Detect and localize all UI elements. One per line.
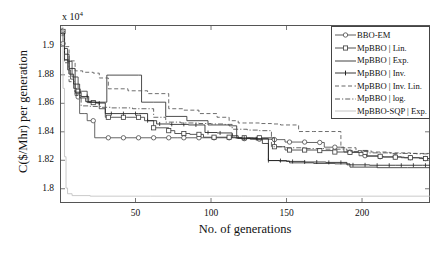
- data-point-marker: [121, 136, 125, 140]
- legend-label: MpBBO-SQP | Exp.: [357, 107, 427, 116]
- legend-item[interactable]: BBO-EM: [332, 29, 429, 42]
- y-axis-tick-label: 1.86: [20, 98, 54, 108]
- legend-label: MpBBO | Inv.: [357, 69, 406, 78]
- y-axis-tick-label: 1.84: [20, 127, 54, 137]
- legend-symbol-none-icon: [334, 93, 357, 105]
- legend-symbol-none-icon: [334, 80, 357, 92]
- legend-symbol-circle-icon: [334, 29, 357, 41]
- legend-item[interactable]: MpBBO-SQP | Exp.: [332, 105, 429, 118]
- data-point-marker: [318, 140, 322, 144]
- legend-label: MpBBO | Inv. Lin.: [357, 82, 422, 91]
- data-point-marker: [227, 135, 231, 139]
- data-point-marker: [287, 140, 291, 144]
- data-point-marker: [152, 126, 156, 130]
- data-point-marker: [136, 136, 140, 140]
- y-axis-tick-label: 1.8: [20, 184, 54, 194]
- data-point-marker: [378, 154, 382, 158]
- data-point-marker: [318, 148, 322, 152]
- y-axis-tick-label: 1.9: [20, 41, 54, 51]
- legend-label: MpBBO | Lin.: [357, 44, 407, 53]
- data-point-marker: [333, 145, 337, 149]
- data-point-marker: [121, 115, 125, 119]
- x-axis-tick-label: 150: [267, 208, 307, 218]
- legend-label: MpBBO | log.: [357, 94, 406, 103]
- data-point-marker: [197, 132, 201, 136]
- y-axis-tick-label: 1.82: [20, 155, 54, 165]
- y-axis-tick-label: 1.88: [20, 70, 54, 80]
- data-point-marker: [287, 148, 291, 152]
- legend-symbol-none-icon: [334, 105, 357, 117]
- legend-label: BBO-EM: [357, 31, 390, 40]
- legend-item[interactable]: MpBBO | Exp.: [332, 54, 429, 67]
- data-point-marker: [136, 115, 140, 119]
- data-point-marker: [91, 118, 95, 122]
- x-axis-tick-label: 200: [342, 208, 382, 218]
- legend-item[interactable]: MpBBO | log.: [332, 92, 429, 105]
- data-point-marker: [212, 135, 216, 139]
- x-axis-tick-label: 100: [191, 208, 231, 218]
- data-point-marker: [91, 101, 95, 105]
- data-point-marker: [348, 150, 352, 154]
- data-point-marker: [167, 129, 171, 133]
- data-point-marker: [393, 155, 397, 159]
- data-point-marker: [182, 131, 186, 135]
- legend-item[interactable]: MpBBO | Lin.: [332, 42, 429, 55]
- legend-item[interactable]: MpBBO | Inv.: [332, 67, 429, 80]
- legend-symbol-square-icon: [334, 42, 357, 54]
- data-point-marker: [302, 140, 306, 144]
- x-axis-tick-label: 50: [116, 208, 156, 218]
- data-point-marker: [106, 115, 110, 119]
- data-point-marker: [167, 136, 171, 140]
- data-point-marker: [151, 136, 155, 140]
- chart-legend: BBO-EMMpBBO | Lin.MpBBO | Exp.MpBBO | In…: [331, 26, 430, 119]
- data-point-marker: [333, 150, 337, 154]
- figure-chart: x 104 C($/Mhr) per generation No. of gen…: [0, 0, 446, 257]
- data-point-marker: [408, 156, 412, 160]
- data-point-marker: [182, 136, 186, 140]
- legend-symbol-none-icon: [334, 55, 357, 67]
- data-point-marker: [106, 136, 110, 140]
- data-point-marker: [423, 156, 427, 160]
- legend-symbol-dot-icon: [334, 67, 357, 79]
- legend-item[interactable]: MpBBO | Inv. Lin.: [332, 80, 429, 93]
- legend-label: MpBBO | Exp.: [357, 56, 409, 65]
